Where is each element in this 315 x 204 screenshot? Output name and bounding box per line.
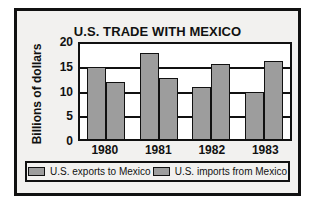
legend-entry-exports: U.S. exports to Mexico: [28, 166, 151, 177]
bar-exports-1983: [245, 92, 264, 139]
bar-imports-1981: [159, 78, 178, 139]
y-tick-5: 5: [43, 109, 73, 123]
x-axis-tick-labels: 1980 1981 1982 1983: [78, 143, 292, 157]
plot-area: [78, 42, 292, 141]
bar-group-1981: [140, 44, 178, 139]
x-tick-1983: 1983: [245, 143, 285, 157]
bars-layer: [80, 44, 290, 139]
y-axis-label: Billions of dollars: [30, 38, 44, 150]
bar-exports-1982: [192, 87, 211, 139]
chart-legend: U.S. exports to Mexico U.S. imports from…: [25, 161, 290, 182]
bar-imports-1983: [264, 61, 283, 139]
y-tick-10: 10: [43, 85, 73, 99]
bar-group-1982: [192, 44, 230, 139]
legend-label-exports: U.S. exports to Mexico: [50, 166, 151, 177]
legend-entry-imports: U.S. imports from Mexico: [153, 166, 287, 177]
y-tick-0: 0: [43, 134, 73, 148]
x-tick-1982: 1982: [192, 143, 232, 157]
gray-swatch-icon: [153, 167, 170, 176]
bar-group-1983: [245, 44, 283, 139]
y-tick-20: 20: [43, 35, 73, 49]
x-tick-1981: 1981: [138, 143, 178, 157]
bar-exports-1980: [87, 67, 106, 139]
x-tick-1980: 1980: [85, 143, 125, 157]
chart-card: U.S. TRADE WITH MEXICO Billions of dolla…: [14, 8, 301, 196]
y-tick-15: 15: [43, 60, 73, 74]
bar-imports-1982: [211, 64, 230, 139]
bar-imports-1980: [106, 82, 125, 139]
bar-exports-1981: [140, 53, 159, 139]
bar-group-1980: [87, 44, 125, 139]
gray-swatch-icon: [28, 167, 45, 176]
legend-label-imports: U.S. imports from Mexico: [175, 166, 287, 177]
